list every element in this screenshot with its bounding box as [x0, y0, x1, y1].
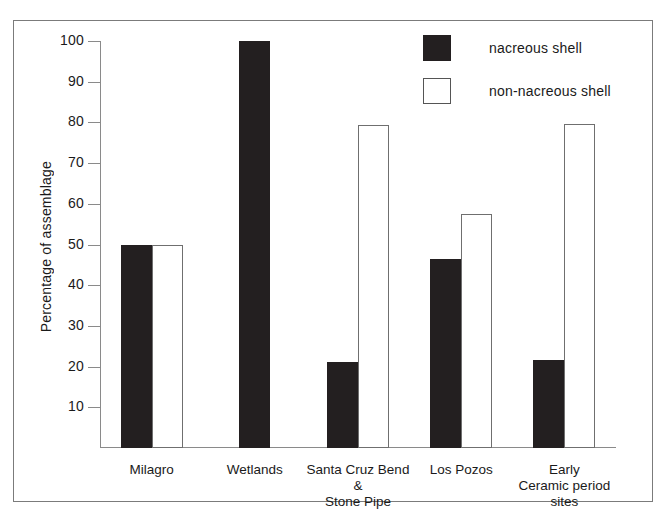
bar-group: Milagro: [100, 41, 203, 448]
y-axis-title: Percentage of assemblage: [38, 161, 60, 332]
legend-label: nacreous shell: [489, 40, 582, 56]
y-tick-label: 100: [60, 32, 84, 48]
bar-row: [306, 41, 409, 448]
bar-solid[interactable]: [533, 360, 564, 448]
y-tick-label: 50: [68, 236, 84, 252]
bar-hollow[interactable]: [152, 245, 183, 449]
y-tick-label: 60: [68, 195, 84, 211]
bar-solid[interactable]: [121, 245, 152, 449]
legend-swatch-hollow: [423, 78, 451, 104]
bar-group: Santa Cruz Bend & Stone Pipe: [306, 41, 409, 448]
bar-solid[interactable]: [430, 259, 461, 448]
y-tick-80: 80: [88, 122, 100, 123]
y-tick-label: 70: [68, 154, 84, 170]
bar-group: Wetlands: [203, 41, 306, 448]
y-tick-100: 100: [88, 41, 100, 42]
chart-legend: nacreous shellnon-nacreous shell: [423, 35, 611, 121]
legend-item: nacreous shell: [423, 35, 611, 61]
bar-solid[interactable]: [327, 362, 358, 448]
figure-frame: Percentage of assemblage 100908070605040…: [13, 20, 653, 502]
y-tick-label: 20: [68, 358, 84, 374]
bar-row: [100, 41, 203, 448]
y-tick-40: 40: [88, 285, 100, 286]
legend-item: non-nacreous shell: [423, 78, 611, 104]
y-tick-label: 30: [68, 317, 84, 333]
y-tick-label: 80: [68, 113, 84, 129]
y-tick-70: 70: [88, 163, 100, 164]
y-tick-60: 60: [88, 204, 100, 205]
bar-solid[interactable]: [239, 41, 270, 448]
bar-hollow[interactable]: [564, 124, 595, 448]
chart-page: Percentage of assemblage 100908070605040…: [0, 0, 666, 519]
y-tick-label: 90: [68, 73, 84, 89]
y-tick-label: 40: [68, 276, 84, 292]
y-tick-10: 10: [88, 407, 100, 408]
bar-row: [203, 41, 306, 448]
bar-hollow[interactable]: [358, 125, 389, 448]
y-tick-50: 50: [88, 245, 100, 246]
bar-hollow[interactable]: [461, 214, 492, 448]
legend-label: non-nacreous shell: [489, 83, 611, 99]
y-tick-90: 90: [88, 82, 100, 83]
y-tick-20: 20: [88, 367, 100, 368]
y-tick-30: 30: [88, 326, 100, 327]
y-tick-label: 10: [68, 398, 84, 414]
x-category-label: Early Ceramic period sites: [489, 462, 639, 510]
legend-swatch-solid: [423, 35, 451, 61]
